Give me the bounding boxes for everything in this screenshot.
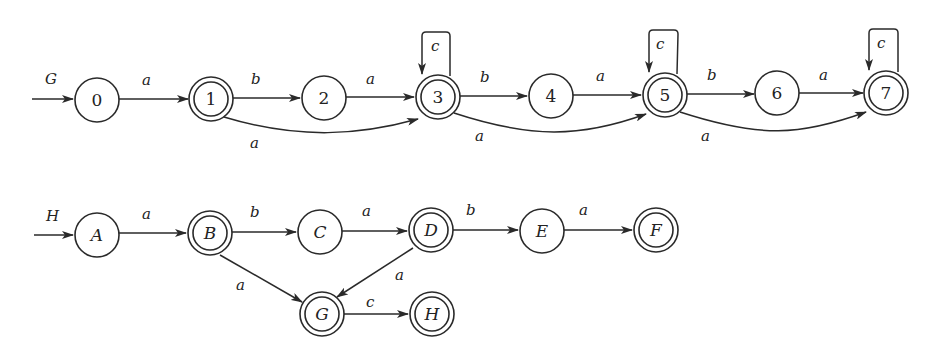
state-7: 7 xyxy=(864,71,908,115)
edge-label-B-G: a xyxy=(236,276,245,294)
loop-label-3: c xyxy=(431,37,440,55)
state-6: 6 xyxy=(755,71,799,115)
automaton-g: G a b a b a b a a a a c c c 0 xyxy=(32,29,908,152)
svg-text:G: G xyxy=(315,304,329,324)
automata-diagram: G a b a b a b a a a a c c c 0 xyxy=(0,0,942,353)
svg-text:C: C xyxy=(313,222,326,242)
state-H: H xyxy=(410,292,454,336)
loop-label-5: c xyxy=(656,35,665,53)
edge-label-1-2: b xyxy=(251,70,261,88)
automaton-h: H a b a b a a a c A B C xyxy=(34,201,678,336)
svg-text:D: D xyxy=(423,220,438,240)
state-1: 1 xyxy=(189,77,233,121)
svg-text:2: 2 xyxy=(319,88,330,108)
state-5: 5 xyxy=(643,73,687,117)
svg-text:7: 7 xyxy=(881,83,892,103)
edge-B-G xyxy=(220,255,302,302)
svg-text:F: F xyxy=(649,220,663,240)
svg-text:3: 3 xyxy=(433,87,444,107)
svg-text:0: 0 xyxy=(92,90,103,110)
edge-label-6-7: a xyxy=(819,66,828,84)
edge-label-D-G: a xyxy=(395,266,404,284)
state-G: G xyxy=(300,292,344,336)
state-4: 4 xyxy=(529,74,573,118)
state-2: 2 xyxy=(302,76,346,120)
state-0: 0 xyxy=(75,78,119,122)
start-label-h: H xyxy=(45,207,60,225)
svg-text:6: 6 xyxy=(772,83,783,103)
state-F: F xyxy=(634,208,678,252)
edge-label-5-7: a xyxy=(701,127,710,145)
svg-text:E: E xyxy=(535,221,549,241)
svg-text:5: 5 xyxy=(660,85,671,105)
state-E: E xyxy=(520,209,564,253)
edge-label-C-D: a xyxy=(362,202,371,220)
edge-label-G-H: c xyxy=(366,293,375,311)
svg-text:1: 1 xyxy=(206,89,217,109)
edge-label-3-4: b xyxy=(480,68,490,86)
start-label-g: G xyxy=(45,70,57,88)
state-C: C xyxy=(298,210,342,254)
edge-label-D-E: b xyxy=(466,201,476,219)
state-3: 3 xyxy=(416,75,460,119)
svg-text:4: 4 xyxy=(546,86,557,106)
svg-text:A: A xyxy=(89,225,103,245)
edge-label-2-3: a xyxy=(366,70,375,88)
edge-label-A-B: a xyxy=(142,205,151,223)
edge-label-4-5: a xyxy=(596,67,605,85)
edge-label-3-5: a xyxy=(475,127,484,145)
edge-label-0-1: a xyxy=(142,71,151,89)
loop-label-7: c xyxy=(877,34,886,52)
edge-label-1-3: a xyxy=(250,134,259,152)
state-B: B xyxy=(188,211,232,255)
svg-text:H: H xyxy=(424,304,441,324)
edge-label-5-6: b xyxy=(707,66,717,84)
state-D: D xyxy=(409,208,453,252)
edge-label-E-F: a xyxy=(579,201,588,219)
state-A: A xyxy=(75,213,119,257)
svg-text:B: B xyxy=(203,223,217,243)
edge-label-B-C: b xyxy=(250,203,260,221)
